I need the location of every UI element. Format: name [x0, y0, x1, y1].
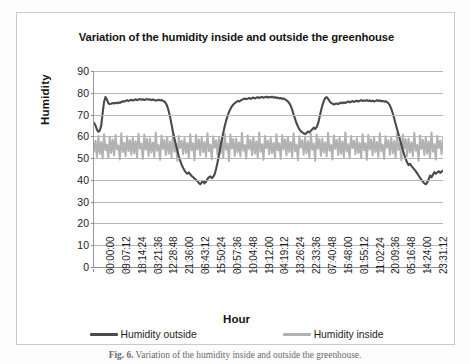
- x-tick-label: 10:04:48: [248, 237, 259, 274]
- y-tick-mark: [91, 93, 94, 94]
- x-tick-label: 18:14:24: [137, 237, 148, 274]
- x-tick-mark: [156, 269, 157, 272]
- y-tick-mark: [91, 267, 94, 268]
- x-tick-mark: [394, 269, 395, 272]
- chart-title: Variation of the humidity inside and out…: [17, 31, 456, 43]
- x-tick-label: 01:55:12: [359, 237, 370, 274]
- x-tick-mark: [125, 269, 126, 272]
- x-tick-mark: [363, 269, 364, 272]
- x-tick-label: 00:57:36: [232, 237, 243, 274]
- figure-caption: Fig. 6. Variation of the humidity inside…: [0, 350, 470, 360]
- x-tick-mark: [93, 269, 94, 272]
- legend-label: Humidity inside: [314, 329, 384, 340]
- gridline: [94, 223, 443, 224]
- caption-label: Fig. 6.: [109, 350, 134, 360]
- legend-entry[interactable]: Humidity outside: [90, 329, 197, 340]
- x-tick-label: 21:36:00: [184, 237, 195, 274]
- legend-swatch-icon: [90, 333, 118, 336]
- x-tick-mark: [315, 269, 316, 272]
- x-tick-mark: [220, 269, 221, 272]
- chart-frame: Variation of the humidity inside and out…: [16, 12, 455, 345]
- x-tick-label: 15:50:24: [216, 237, 227, 274]
- x-tick-mark: [109, 269, 110, 272]
- y-tick-label: 90: [77, 65, 89, 77]
- legend-entry[interactable]: Humidity inside: [283, 329, 384, 340]
- gridline: [94, 158, 443, 159]
- y-tick-label: 0: [83, 261, 89, 273]
- x-tick-mark: [141, 269, 142, 272]
- x-tick-mark: [347, 269, 348, 272]
- x-tick-mark: [410, 269, 411, 272]
- y-tick-label: 50: [77, 152, 89, 164]
- x-tick-mark: [204, 269, 205, 272]
- y-tick-mark: [91, 71, 94, 72]
- x-tick-label: 06:43:12: [200, 237, 211, 274]
- y-tick-mark: [91, 202, 94, 203]
- y-tick-mark: [91, 180, 94, 181]
- gridline: [94, 115, 443, 116]
- x-tick-label: 12:28:48: [168, 237, 179, 274]
- x-axis-title: Hour: [17, 313, 456, 325]
- y-tick-mark: [91, 245, 94, 246]
- y-tick-label: 40: [77, 174, 89, 186]
- x-tick-mark: [426, 269, 427, 272]
- figure-container: Variation of the humidity inside and out…: [0, 0, 470, 364]
- x-tick-mark: [283, 269, 284, 272]
- x-tick-label: 09:07:12: [121, 237, 132, 274]
- x-tick-mark: [172, 269, 173, 272]
- legend-swatch-icon: [283, 333, 311, 336]
- gridline: [94, 180, 443, 181]
- x-tick-label: 13:26:24: [295, 237, 306, 274]
- x-tick-label: 03:21:36: [153, 237, 164, 274]
- gridline: [94, 136, 443, 137]
- x-tick-mark: [188, 269, 189, 272]
- y-tick-label: 80: [77, 87, 89, 99]
- y-tick-label: 10: [77, 239, 89, 251]
- x-tick-label: 14:24:00: [422, 237, 433, 274]
- y-tick-mark: [91, 136, 94, 137]
- y-tick-mark: [91, 115, 94, 116]
- x-tick-label: 04:19:12: [279, 237, 290, 274]
- x-tick-label: 11:02:24: [375, 237, 386, 274]
- x-tick-mark: [379, 269, 380, 272]
- y-tick-label: 20: [77, 217, 89, 229]
- x-tick-mark: [236, 269, 237, 272]
- chart-legend: Humidity outsideHumidity inside: [17, 329, 456, 340]
- gridline: [94, 93, 443, 94]
- x-tick-mark: [252, 269, 253, 272]
- x-tick-label: 20:09:36: [390, 237, 401, 274]
- x-tick-label: 22:33:36: [311, 237, 322, 274]
- y-tick-mark: [91, 223, 94, 224]
- x-tick-label: 16:48:00: [343, 237, 354, 274]
- y-tick-label: 70: [77, 109, 89, 121]
- gridline: [94, 71, 443, 72]
- y-tick-mark: [91, 158, 94, 159]
- y-tick-label: 30: [77, 196, 89, 208]
- y-tick-label: 60: [77, 130, 89, 142]
- x-tick-label: 19:12:00: [264, 237, 275, 274]
- x-tick-mark: [299, 269, 300, 272]
- caption-text: Variation of the humidity inside and out…: [133, 350, 361, 360]
- x-tick-label: 00:00:00: [105, 237, 116, 274]
- x-tick-label: 05:16:48: [406, 237, 417, 274]
- x-tick-label: 07:40:48: [327, 237, 338, 274]
- gridline: [94, 202, 443, 203]
- x-tick-label: 23:31:12: [438, 237, 449, 274]
- legend-label: Humidity outside: [121, 329, 197, 340]
- x-tick-mark: [331, 269, 332, 272]
- x-tick-mark: [268, 269, 269, 272]
- y-axis-title: Humidity: [39, 74, 51, 125]
